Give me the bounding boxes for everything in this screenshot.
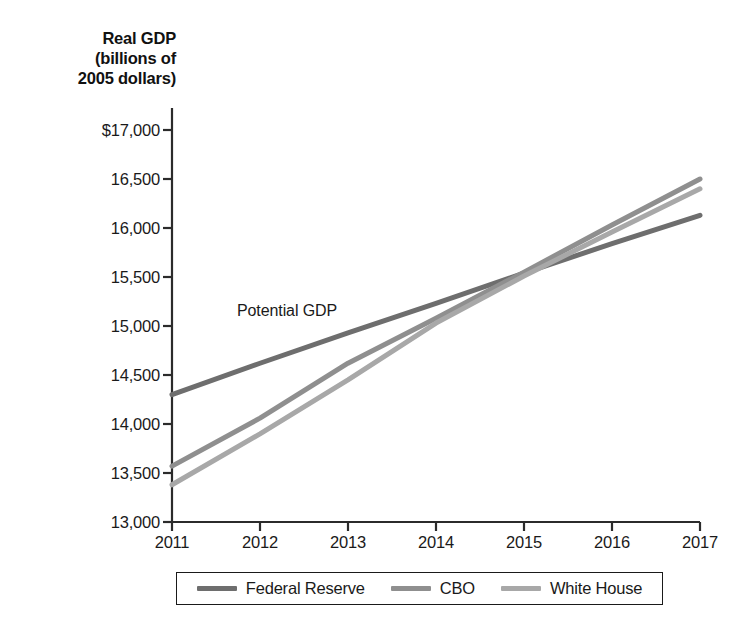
legend-swatch-white-house: [501, 586, 541, 591]
y-axis-ticks: [163, 130, 172, 522]
legend-item-cbo[interactable]: CBO: [391, 580, 475, 597]
legend-label-cbo: CBO: [440, 580, 475, 597]
legend-item-white-house[interactable]: White House: [501, 580, 642, 597]
x-axis-ticks: [172, 522, 700, 531]
series-line-federal-reserve: [172, 215, 700, 394]
legend-label-white-house: White House: [550, 580, 642, 597]
series-lines: [172, 179, 700, 485]
plot-area: [0, 0, 746, 633]
legend-swatch-federal-reserve: [197, 586, 237, 591]
legend-swatch-cbo: [391, 586, 431, 591]
series-line-white-house: [172, 189, 700, 485]
axis-lines: [172, 108, 700, 522]
gdp-projection-chart: Real GDP (billions of 2005 dollars) $17,…: [0, 0, 746, 633]
legend-label-federal-reserve: Federal Reserve: [246, 580, 365, 597]
chart-legend: Federal Reserve CBO White House: [176, 572, 663, 605]
legend-item-federal-reserve[interactable]: Federal Reserve: [197, 580, 365, 597]
